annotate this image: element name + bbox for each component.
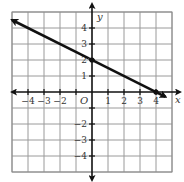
y-tick-label: 4 bbox=[81, 23, 87, 33]
x-tick-label: −3 bbox=[37, 96, 51, 106]
x-tick-label: 2 bbox=[121, 96, 127, 106]
y-tick-label: −4 bbox=[74, 151, 88, 161]
y-axis-label: y bbox=[96, 11, 103, 22]
origin-label: O bbox=[80, 95, 88, 106]
y-tick-label: 3 bbox=[81, 39, 87, 49]
x-tick-label: 1 bbox=[105, 96, 111, 106]
x-axis-label: x bbox=[175, 94, 181, 105]
x-tick-label: 3 bbox=[137, 96, 143, 106]
data-line bbox=[12, 20, 166, 97]
point-marker bbox=[89, 57, 94, 62]
y-tick-label: 1 bbox=[81, 71, 87, 81]
x-tick-label: 4 bbox=[153, 96, 159, 106]
line-segment-left bbox=[12, 20, 89, 58]
coordinate-plane: −4−3−212344321−2−3−4 y x O bbox=[0, 0, 184, 182]
point-marker bbox=[153, 89, 158, 94]
x-tick-label: −2 bbox=[53, 96, 66, 106]
x-tick-label: −4 bbox=[21, 96, 35, 106]
y-tick-label: −3 bbox=[74, 135, 88, 145]
y-tick-label: −2 bbox=[74, 119, 87, 129]
